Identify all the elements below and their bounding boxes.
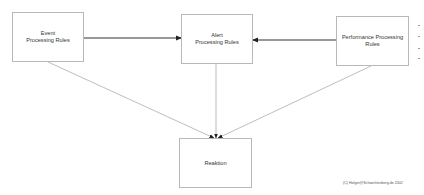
node-label: Reaktion: [204, 160, 226, 167]
cutoff-text-fragment: [418, 58, 420, 59]
cutoff-text-fragment: [418, 25, 420, 26]
cutoff-text-fragment: [418, 36, 420, 37]
node-label: Alert Processing Rules: [195, 32, 239, 46]
diagram-canvas: Event Processing Rules Alert Processing …: [0, 0, 424, 195]
node-alert-processing-rules[interactable]: Alert Processing Rules: [181, 14, 253, 64]
node-label: Event Processing Rules: [26, 30, 70, 44]
edge-performance-to-reaktion: [218, 66, 371, 138]
node-event-processing-rules[interactable]: Event Processing Rules: [12, 12, 84, 62]
node-label: Performance Processing Rules: [342, 34, 403, 48]
node-performance-processing-rules[interactable]: Performance Processing Rules: [336, 16, 409, 66]
edge-event-to-reaktion: [48, 62, 214, 138]
node-reaktion[interactable]: Reaktion: [179, 138, 252, 188]
copyright-notice: (C) Holger@Schwichtenberg.de 2002: [343, 181, 403, 185]
cutoff-text-fragment: [418, 48, 420, 49]
